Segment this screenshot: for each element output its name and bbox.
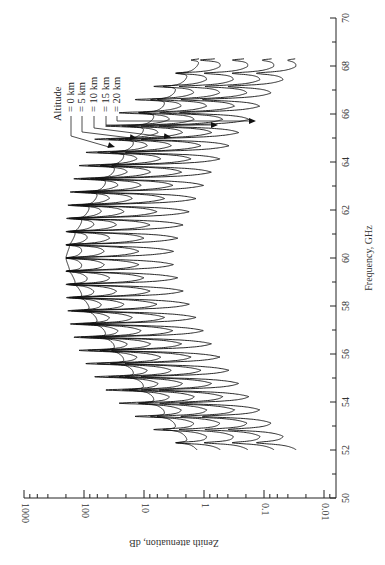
legend-leader-0km	[71, 116, 109, 147]
frequency-axis-title: Frequency, GHz	[363, 225, 374, 291]
legend-title: Altitude	[52, 86, 63, 121]
attenuation-curves	[66, 59, 296, 450]
frequency-ticks: 5052545658606264666870	[330, 13, 351, 503]
attenuation-axis-title: Zenith attenuation, dB	[129, 538, 219, 549]
frequency-tick-label: 62	[340, 205, 351, 215]
legend-arrow-icon	[211, 122, 218, 128]
frequency-tick-label: 54	[340, 397, 351, 407]
legend-label-5km: = 5 km	[76, 82, 87, 112]
attenuation-tick-label: 10	[140, 503, 151, 513]
frequency-tick-label: 58	[340, 301, 351, 311]
attenuation-ticks: 10001001010.10.01	[20, 490, 331, 523]
legend-label-15km: = 15 km	[100, 77, 111, 112]
zenith-attenuation-chart: 5052545658606264666870 10001001010.10.01…	[0, 0, 385, 565]
attenuation-tick-label: 1000	[20, 503, 31, 523]
frequency-tick-label: 60	[340, 253, 351, 263]
attenuation-tick-label: 1	[200, 503, 211, 508]
legend-arrow-icon	[249, 118, 256, 124]
attenuation-tick-label: 0.01	[320, 503, 331, 521]
frequency-tick-label: 52	[340, 445, 351, 455]
attenuation-tick-label: 0.1	[260, 503, 271, 516]
frequency-tick-label: 64	[340, 157, 351, 167]
legend-label-20km: = 20 km	[111, 77, 122, 112]
legend-leader-20km	[117, 116, 250, 121]
curve-20km	[66, 59, 296, 450]
frequency-tick-label: 70	[340, 13, 351, 23]
legend-label-10km: = 10 km	[88, 77, 99, 112]
legend-label-0km: = 0 km	[65, 82, 76, 112]
legend-arrow-icon	[107, 142, 115, 148]
frequency-tick-label: 66	[340, 109, 351, 119]
frequency-tick-label: 50	[340, 493, 351, 503]
attenuation-tick-label: 100	[80, 503, 91, 518]
frequency-tick-label: 68	[340, 61, 351, 71]
frequency-tick-label: 56	[340, 349, 351, 359]
